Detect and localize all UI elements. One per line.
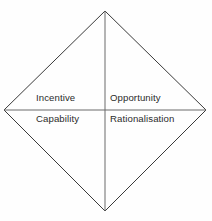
fraud-diamond-diagram xyxy=(0,0,212,221)
diagram-canvas: Incentive Opportunity Capability Rationa… xyxy=(0,0,212,221)
quadrant-label-capability: Capability xyxy=(36,113,79,124)
quadrant-label-opportunity: Opportunity xyxy=(110,92,161,103)
quadrant-label-rationalisation: Rationalisation xyxy=(110,113,174,124)
quadrant-label-incentive: Incentive xyxy=(36,92,75,103)
